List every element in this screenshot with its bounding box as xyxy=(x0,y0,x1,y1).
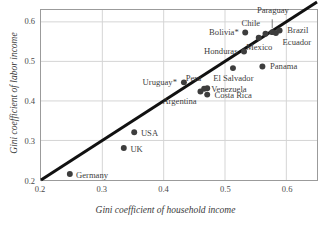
y-tick-label: 0.2 xyxy=(11,176,35,186)
plot-area xyxy=(40,9,318,181)
point-label: Paraguay xyxy=(257,7,289,16)
data-point[interactable] xyxy=(277,28,283,34)
x-axis-title: Gini coefficient of household income xyxy=(0,205,331,215)
point-label: Chile xyxy=(241,19,260,28)
x-tick-label: 0.5 xyxy=(220,184,231,194)
data-point[interactable] xyxy=(256,35,262,41)
scatter-chart-figure: 0.20.30.40.50.60.20.30.40.50.6 GermanyUK… xyxy=(0,0,331,227)
data-point[interactable] xyxy=(242,30,248,36)
point-label: Brazil xyxy=(287,26,308,35)
point-label: El Salvador xyxy=(213,74,253,83)
x-tick-label: 0.3 xyxy=(96,184,107,194)
x-tick-label: 0.6 xyxy=(282,184,293,194)
point-label: Panama xyxy=(270,62,297,71)
point-label: Bolivia* xyxy=(209,28,239,37)
data-point[interactable] xyxy=(259,64,265,70)
data-point[interactable] xyxy=(263,31,269,37)
data-point[interactable] xyxy=(131,129,137,135)
point-label: Costa Rica xyxy=(214,90,251,99)
point-label: Argentina xyxy=(162,97,196,106)
data-layer xyxy=(41,10,317,180)
point-label: Honduras xyxy=(204,47,237,56)
data-point[interactable] xyxy=(201,86,207,92)
point-label: UK xyxy=(130,144,142,153)
point-label: USA xyxy=(141,128,158,137)
point-label: Germany xyxy=(76,171,108,180)
point-label: Ecuador xyxy=(283,38,312,47)
x-tick-label: 0.2 xyxy=(35,184,46,194)
identity-reference-line xyxy=(41,2,317,180)
point-label: Peru xyxy=(186,74,202,83)
point-label: Mexico xyxy=(246,43,272,52)
data-point[interactable] xyxy=(230,65,236,71)
x-tick-label: 0.4 xyxy=(158,184,169,194)
y-axis-title: Gini coefficient of labor income xyxy=(9,13,19,173)
data-point[interactable] xyxy=(67,171,73,177)
data-point[interactable] xyxy=(121,145,127,151)
data-point[interactable] xyxy=(204,92,210,98)
point-label: Uruguay* xyxy=(143,78,177,87)
